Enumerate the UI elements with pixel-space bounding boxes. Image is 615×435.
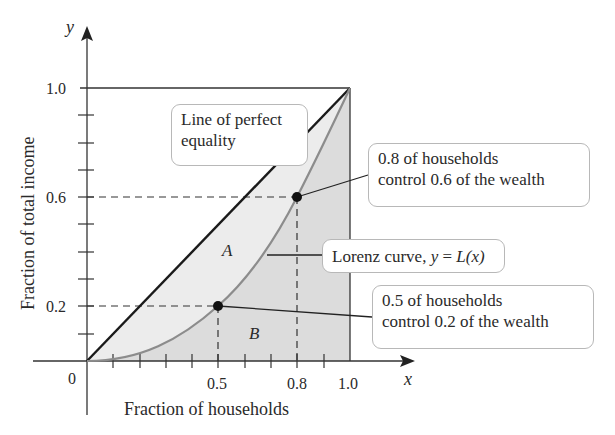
- x-axis-symbol: x: [403, 369, 412, 389]
- y-tick-label-0-6: 0.6: [46, 189, 66, 206]
- callout-lorenz-fn: L(x): [456, 247, 484, 266]
- callout-point-0-8: 0.8 of households control 0.6 of the wea…: [368, 143, 590, 207]
- y-axis-title: Fraction of total income: [18, 137, 38, 310]
- callout-point-0-5: 0.5 of households control 0.2 of the wea…: [372, 285, 594, 349]
- y-tick-label-1-0: 1.0: [46, 80, 66, 97]
- y-tick-label-0-2: 0.2: [46, 298, 66, 315]
- callout-lorenz-eq: =: [438, 247, 456, 266]
- region-b-label: B: [249, 324, 260, 343]
- y-axis-symbol: y: [64, 17, 74, 37]
- data-point-0-5: [213, 301, 223, 311]
- region-a-label: A: [221, 241, 233, 260]
- callout-lorenz-curve: Lorenz curve, y = L(x): [322, 239, 505, 273]
- callout-line-of-equality: Line of perfect equality: [171, 104, 308, 166]
- y-ticks: [78, 115, 94, 334]
- callout-equality-line2: equality: [181, 130, 298, 151]
- callout-point-low-line2: control 0.2 of the wealth: [382, 311, 584, 332]
- callout-equality-line1: Line of perfect: [181, 109, 298, 130]
- callout-lorenz-prefix: Lorenz curve,: [332, 247, 431, 266]
- x-axis-title: Fraction of households: [124, 399, 289, 419]
- callout-point-high-line2: control 0.6 of the wealth: [378, 169, 580, 190]
- lorenz-chart: y x 0 1.0 0.6 0.2 0.5 0.8 1.0 Fraction o…: [0, 0, 615, 435]
- callout-point-low-line1: 0.5 of households: [382, 290, 584, 311]
- x-tick-label-0-8: 0.8: [287, 375, 307, 392]
- origin-label: 0: [68, 370, 76, 387]
- data-point-0-8: [292, 192, 302, 202]
- x-tick-label-1-0: 1.0: [338, 375, 358, 392]
- x-tick-label-0-5: 0.5: [207, 375, 227, 392]
- callout-point-high-line1: 0.8 of households: [378, 148, 580, 169]
